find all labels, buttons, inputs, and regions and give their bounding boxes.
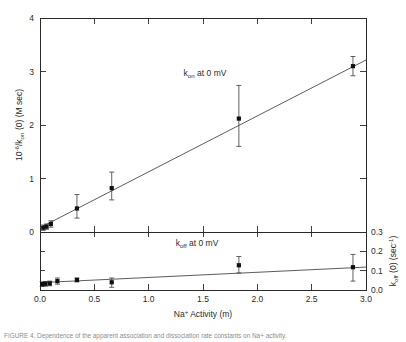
data-point-marker bbox=[110, 186, 114, 190]
y-lower-axis-title: koff (0) (sec-1) bbox=[387, 236, 399, 287]
x-ticklabel: 2.5 bbox=[306, 294, 318, 304]
y-upper-ticklabel: 2 bbox=[29, 120, 34, 130]
data-point-marker bbox=[351, 265, 355, 269]
data-point-marker bbox=[75, 278, 79, 282]
data-point-marker bbox=[75, 206, 79, 210]
y-lower-ticklabel: 0.0 bbox=[371, 285, 383, 295]
data-point-marker bbox=[49, 222, 53, 226]
x-ticklabel: 0.5 bbox=[88, 294, 100, 304]
figure-container: 012340.00.51.01.52.02.53.00.00.10.20.3Na… bbox=[0, 0, 406, 342]
x-ticklabel: 3.0 bbox=[360, 294, 372, 304]
x-ticklabel: 1.5 bbox=[197, 294, 209, 304]
data-point-marker bbox=[43, 282, 47, 286]
y-upper-ticklabel: 0 bbox=[29, 227, 34, 237]
y-lower-ticklabel: 0.1 bbox=[371, 266, 383, 276]
upper-data-series bbox=[41, 57, 356, 231]
data-point-marker bbox=[48, 281, 52, 285]
y-upper-ticklabel: 1 bbox=[29, 174, 34, 184]
x-ticklabel: 2.0 bbox=[251, 294, 263, 304]
y-upper-ticklabel: 3 bbox=[29, 67, 34, 77]
y-upper-ticklabel: 4 bbox=[29, 13, 34, 23]
data-point-marker bbox=[237, 116, 241, 120]
x-ticklabel: 1.0 bbox=[143, 294, 155, 304]
data-point-marker bbox=[351, 64, 355, 68]
data-point-marker bbox=[110, 280, 114, 284]
data-point-marker bbox=[55, 279, 59, 283]
data-point-marker bbox=[237, 263, 241, 267]
figure-caption: FIGURE 4. Dependence of the apparent ass… bbox=[4, 332, 404, 342]
x-ticklabel: 0.0 bbox=[34, 294, 46, 304]
lower-fit-line bbox=[40, 267, 366, 283]
figure-svg: 012340.00.51.01.52.02.53.00.00.10.20.3Na… bbox=[0, 0, 406, 342]
upper-panel-annotation: kon at 0 mV bbox=[184, 68, 227, 79]
y-lower-ticklabel: 0.2 bbox=[371, 246, 383, 256]
y-upper-axis-title: 10-6/kon (0) (M sec) bbox=[13, 89, 25, 161]
upper-fit-line bbox=[40, 60, 366, 228]
data-point-marker bbox=[44, 225, 48, 229]
x-axis-title: Na+ Activity (m) bbox=[174, 308, 233, 319]
lower-data-series bbox=[40, 254, 356, 287]
upper-panel-frame bbox=[40, 18, 366, 232]
y-lower-ticklabel: 0.3 bbox=[371, 227, 383, 237]
lower-panel-annotation: koff at 0 mV bbox=[176, 238, 219, 249]
